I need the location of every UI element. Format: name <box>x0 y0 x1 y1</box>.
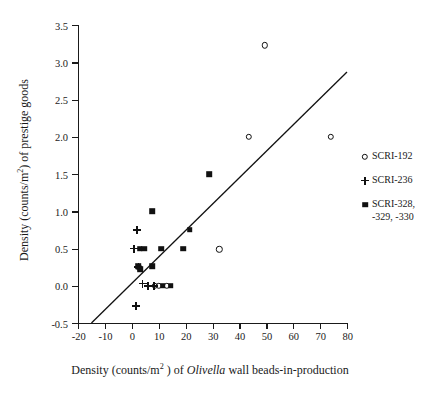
chart-page: Density (counts/m2) of prestige goods 3.… <box>0 0 444 394</box>
legend-marker-plus-icon <box>358 174 372 187</box>
x-tick: 40 <box>239 323 240 329</box>
y-tick-label: 2.5 <box>55 95 68 106</box>
x-tick: 20 <box>186 323 187 329</box>
y-tick-label: 1.0 <box>55 206 68 217</box>
x-tick: 30 <box>213 323 214 329</box>
data-point-open-circle <box>216 246 222 252</box>
data-point-plus <box>133 226 141 234</box>
open-circle-icon <box>362 153 368 159</box>
data-point-plus <box>132 302 140 310</box>
data-point-filled-square <box>141 246 147 252</box>
plot-area: 3.53.02.52.01.51.00.50.0-0.5 -20-1001020… <box>78 25 347 323</box>
x-tick: 50 <box>266 323 267 329</box>
data-point-plus <box>150 282 158 290</box>
x-tick-label: 10 <box>154 331 165 342</box>
y-tick-label: -0.5 <box>51 318 68 329</box>
y-axis-title: Density (counts/m2) of prestige goods <box>14 0 34 340</box>
data-point-filled-square <box>149 264 155 270</box>
x-tick: 70 <box>320 323 321 329</box>
y-tick: 3.5 <box>72 25 78 26</box>
x-axis-title-prefix: Density (counts/m <box>71 363 159 377</box>
x-axis-title-mid: ) of <box>164 363 187 377</box>
x-tick-label: 70 <box>315 331 326 342</box>
y-axis-title-suffix: ) of prestige goods <box>17 79 31 169</box>
plus-icon <box>361 177 369 185</box>
filled-square-icon <box>362 202 368 208</box>
x-axis-title-genus: Olivella <box>187 363 226 377</box>
data-point-filled-square <box>159 246 165 252</box>
legend-marker-open-circle-icon <box>358 150 372 163</box>
x-tick: -10 <box>105 323 106 329</box>
x-tick-label: 80 <box>342 331 353 342</box>
data-point-filled-square <box>160 283 166 289</box>
y-tick-label: 2.0 <box>55 132 68 143</box>
x-tick-label: 50 <box>262 331 273 342</box>
x-tick-label: 0 <box>130 331 135 342</box>
x-tick: 0 <box>132 323 133 329</box>
x-tick: -20 <box>78 323 79 329</box>
y-tick: 1.0 <box>72 211 78 212</box>
y-tick: 0.0 <box>72 286 78 287</box>
y-axis-title-superscript: 2 <box>16 169 25 173</box>
chart-legend: SCRI-192SCRI-236SCRI-328, -329, -330 <box>358 150 444 234</box>
data-point-filled-square <box>206 171 212 177</box>
y-tick-label: 0.0 <box>55 281 68 292</box>
trend-line <box>78 25 347 323</box>
y-tick: 2.0 <box>72 137 78 138</box>
y-tick-label: 3.5 <box>55 20 68 31</box>
y-tick: 0.5 <box>72 249 78 250</box>
legend-label: SCRI-192 <box>372 150 413 163</box>
legend-label: SCRI-328, -329, -330 <box>372 198 415 223</box>
data-point-filled-square <box>180 246 186 252</box>
y-tick: 3.0 <box>72 62 78 63</box>
data-point-filled-square <box>137 267 143 273</box>
x-tick-label: 30 <box>208 331 219 342</box>
data-point-open-circle <box>246 134 252 140</box>
x-tick-label: -10 <box>99 331 113 342</box>
y-tick: 1.5 <box>72 174 78 175</box>
y-tick-label: 3.0 <box>55 57 68 68</box>
data-point-open-circle <box>328 134 334 140</box>
legend-item: SCRI-236 <box>358 174 444 187</box>
y-tick-label: 0.5 <box>55 244 68 255</box>
x-tick-label: 60 <box>289 331 300 342</box>
legend-item: SCRI-192 <box>358 150 444 163</box>
legend-marker-filled-square-icon <box>358 198 372 211</box>
legend-item: SCRI-328, -329, -330 <box>358 198 444 223</box>
data-point-filled-square <box>149 208 155 214</box>
x-tick-label: 20 <box>181 331 192 342</box>
legend-label: SCRI-236 <box>372 174 413 187</box>
x-tick-label: -20 <box>72 331 86 342</box>
x-tick: 80 <box>347 323 348 329</box>
x-tick-label: 40 <box>235 331 246 342</box>
x-tick: 60 <box>293 323 294 329</box>
y-axis-line <box>78 25 79 323</box>
x-axis-title-suffix: wall beads-in-production <box>225 363 348 377</box>
data-point-filled-square <box>187 227 193 233</box>
y-tick-label: 1.5 <box>55 169 68 180</box>
data-point-filled-square <box>168 283 174 289</box>
y-tick: 2.5 <box>72 100 78 101</box>
data-point-open-circle <box>262 42 268 48</box>
x-axis-title: Density (counts/m2 ) of Olivella wall be… <box>0 362 420 378</box>
y-axis-title-prefix: Density (counts/m <box>17 173 31 261</box>
x-tick: 10 <box>159 323 160 329</box>
